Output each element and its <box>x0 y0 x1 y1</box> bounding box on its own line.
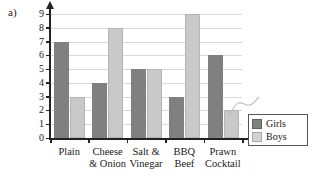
legend-item-girls: Girls <box>252 117 304 130</box>
y-tick <box>46 14 51 16</box>
chart-figure: a) Number of people 0123456789 PlainChee… <box>0 0 314 184</box>
legend: Girls Boys <box>248 114 308 146</box>
legend-label-girls: Girls <box>266 118 286 129</box>
bar-group <box>54 14 85 138</box>
y-tick-label: 9 <box>26 9 44 19</box>
plot-area: 0123456789 PlainCheese& OnionSalt &Vineg… <box>50 14 242 138</box>
y-tick-label: 3 <box>26 92 44 102</box>
y-tick-label: 1 <box>26 119 44 129</box>
bar-girls <box>92 83 107 138</box>
x-tick <box>204 138 206 143</box>
y-tick <box>46 124 51 126</box>
y-tick-label: 5 <box>26 64 44 74</box>
bar-boys <box>108 28 123 138</box>
y-tick-label: 0 <box>26 133 44 143</box>
y-tick <box>46 27 51 29</box>
legend-swatch-girls <box>252 119 262 129</box>
x-tick <box>165 138 167 143</box>
y-tick <box>46 110 51 112</box>
y-tick-label: 2 <box>26 105 44 115</box>
bar-boys <box>147 69 162 138</box>
bar-group <box>208 14 239 138</box>
part-label: a) <box>8 6 17 18</box>
bar-boys <box>185 14 200 138</box>
bar-girls <box>208 55 223 138</box>
legend-item-boys: Boys <box>252 130 304 143</box>
x-tick <box>88 138 90 143</box>
y-tick <box>46 96 51 98</box>
legend-swatch-boys <box>252 132 262 142</box>
y-tick-label: 4 <box>26 78 44 88</box>
x-tick <box>50 138 52 143</box>
y-tick <box>46 69 51 71</box>
y-axis-line <box>49 6 51 138</box>
bar-group <box>169 14 200 138</box>
bar-group <box>131 14 162 138</box>
x-category-line: Cocktail <box>196 158 250 170</box>
y-tick <box>46 55 51 57</box>
bar-group <box>92 14 123 138</box>
x-tick <box>242 138 244 143</box>
y-tick <box>46 82 51 84</box>
y-tick-label: 7 <box>26 37 44 47</box>
legend-label-boys: Boys <box>266 131 287 142</box>
x-category-label: PrawnCocktail <box>196 146 250 169</box>
bar-girls <box>169 97 184 138</box>
y-tick <box>46 41 51 43</box>
y-tick-label: 8 <box>26 23 44 33</box>
x-tick <box>127 138 129 143</box>
y-tick-label: 6 <box>26 50 44 60</box>
y-axis-arrow-icon <box>46 1 54 9</box>
bar-girls <box>54 42 69 138</box>
bar-boys <box>70 97 85 138</box>
bar-girls <box>131 69 146 138</box>
x-axis-line <box>49 138 255 140</box>
x-category-line: Prawn <box>196 146 250 158</box>
